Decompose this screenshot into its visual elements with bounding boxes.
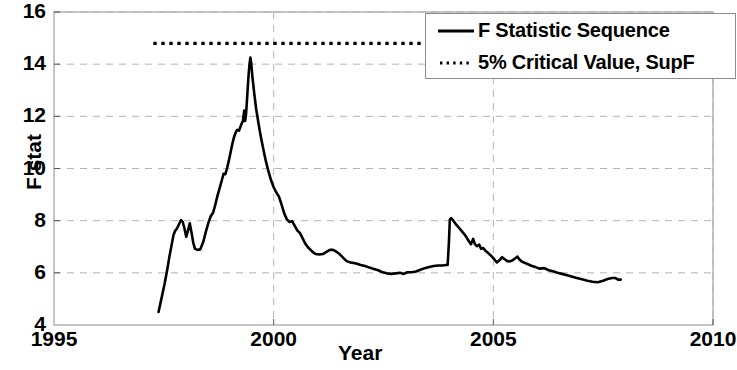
legend-label-f-statistic: F Statistic Sequence — [478, 19, 670, 42]
x-tick-label: 2005 — [448, 327, 538, 351]
legend-entry-critical-value: 5% Critical Value, SupF — [426, 46, 735, 79]
y-tick-label: 16 — [2, 0, 46, 23]
chart-figure: F stat Year 46810121416 1995200020052010… — [0, 0, 737, 370]
y-tick-label: 6 — [2, 260, 46, 284]
x-tick-label: 2010 — [668, 327, 737, 351]
y-tick-label: 14 — [2, 51, 46, 75]
y-tick-label: 8 — [2, 208, 46, 232]
y-tick-label: 10 — [2, 156, 46, 180]
legend-dotted-line-icon — [434, 57, 478, 69]
x-axis-label: Year — [338, 341, 382, 365]
chart-legend: F Statistic Sequence 5% Critical Value, … — [425, 13, 736, 79]
legend-label-critical-value: 5% Critical Value, SupF — [478, 51, 695, 74]
legend-solid-line-icon — [434, 25, 478, 37]
x-tick-label: 1995 — [9, 327, 99, 351]
x-tick-label: 2000 — [229, 327, 319, 351]
legend-entry-f-statistic: F Statistic Sequence — [426, 14, 735, 47]
y-tick-label: 12 — [2, 103, 46, 127]
